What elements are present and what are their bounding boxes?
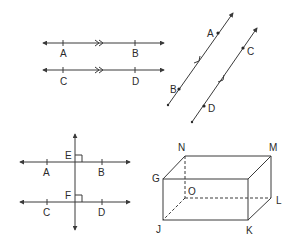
parallel-mark-icon — [218, 75, 224, 82]
label-k: K — [246, 225, 253, 236]
label-l: L — [276, 195, 282, 206]
parallel-horizontal-figure: A B C D — [43, 40, 164, 87]
point-b — [177, 87, 180, 90]
label-a: A — [60, 48, 67, 59]
label-b: B — [170, 84, 177, 95]
line-cd-oblique — [192, 28, 257, 122]
label-o: O — [188, 186, 196, 197]
label-m: M — [269, 142, 277, 153]
label-c: C — [43, 207, 50, 218]
right-angle-icon — [75, 155, 82, 162]
point-c — [241, 46, 244, 49]
label-n: N — [178, 142, 185, 153]
label-b: B — [98, 167, 105, 178]
parallel-mark-icon — [194, 56, 200, 63]
label-j: J — [156, 224, 161, 235]
right-face — [248, 156, 271, 220]
point-d — [202, 104, 205, 107]
front-face — [163, 179, 248, 220]
parallel-oblique-figure: A B C D — [167, 13, 257, 123]
endpoint-dot — [191, 121, 193, 123]
label-c: C — [60, 76, 67, 87]
label-d: D — [98, 207, 105, 218]
point-a — [216, 31, 219, 34]
rectangular-prism-figure: N M G O L J K — [152, 142, 282, 236]
perpendicular-figure: E A B F C D — [20, 134, 130, 230]
label-e: E — [65, 150, 72, 161]
right-angle-icon — [75, 195, 82, 202]
geometry-diagram: A B C D A B C D E A B — [0, 0, 294, 244]
top-face — [163, 156, 271, 179]
line-ab-oblique — [168, 13, 233, 105]
label-a: A — [207, 28, 214, 39]
label-g: G — [152, 173, 160, 184]
label-d: D — [208, 103, 215, 114]
label-f: F — [65, 190, 71, 201]
hidden-edge-oj — [163, 198, 185, 220]
label-d: D — [132, 76, 139, 87]
label-b: B — [132, 48, 139, 59]
label-c: C — [247, 46, 254, 57]
endpoint-dot — [167, 104, 169, 106]
label-a: A — [43, 167, 50, 178]
